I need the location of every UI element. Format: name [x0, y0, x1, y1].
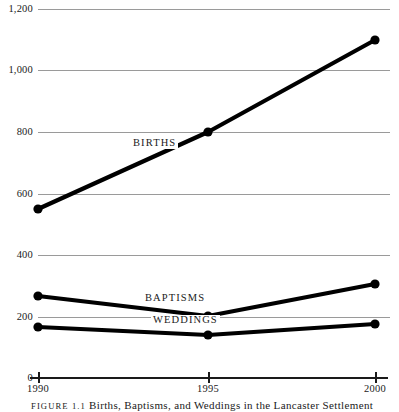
- figure-caption-line: FIGURE 1.1 Births, Baptisms, and Wedding…: [31, 399, 381, 412]
- series-layer: [0, 0, 399, 392]
- x-axis-tick-label-1995: 1995: [188, 384, 228, 395]
- series-label-weddings: WEDDINGS: [151, 315, 220, 326]
- data-point-births-1990: [33, 204, 42, 213]
- figure-caption-body: Births, Baptisms, and Weddings in the La…: [89, 399, 373, 411]
- figure-caption-label: FIGURE 1.1: [31, 401, 86, 411]
- x-axis-tick-label-1990: 1990: [18, 384, 58, 395]
- series-label-births: BIRTHS: [131, 138, 178, 149]
- data-point-weddings-1990: [33, 322, 42, 331]
- series-label-baptisms: BAPTISMS: [143, 293, 207, 304]
- x-axis-tick-1990: [38, 372, 40, 383]
- data-point-births-2000: [370, 35, 379, 44]
- figure-caption: FIGURE 1.1 Births, Baptisms, and Wedding…: [0, 399, 399, 412]
- series-line-births: [38, 40, 375, 209]
- data-point-births-1995: [203, 127, 212, 136]
- data-point-weddings-1995: [203, 330, 212, 339]
- x-axis-tick-1995: [208, 372, 210, 383]
- x-axis-tick-label-2000: 2000: [355, 384, 395, 395]
- x-axis-tick-2000: [375, 372, 377, 383]
- data-point-baptisms-2000: [370, 279, 379, 288]
- chart-plot-area: 1,200 1,000 800 600 400 200 0 BIRTHS BAP…: [0, 0, 399, 392]
- figure: 1,200 1,000 800 600 400 200 0 BIRTHS BAP…: [0, 0, 399, 412]
- data-point-baptisms-1990: [33, 291, 42, 300]
- data-point-weddings-2000: [370, 319, 379, 328]
